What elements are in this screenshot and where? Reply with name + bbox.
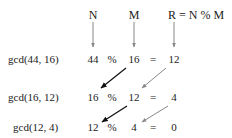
row-2-m: 12 — [129, 92, 140, 103]
row-1-call: gcd(44, 16) — [8, 54, 59, 65]
r-to-m-arrow-1 — [142, 68, 166, 88]
row-2-n: 16 — [88, 92, 99, 103]
row-2-op: % — [107, 92, 116, 103]
header-n: N — [89, 9, 98, 21]
row-2-r: 4 — [171, 92, 177, 103]
header-m: M — [129, 9, 140, 21]
row-3-call: gcd(12, 4) — [13, 122, 58, 133]
row-1-eq: = — [150, 54, 156, 65]
row-2-call: gcd(16, 12) — [8, 92, 59, 103]
row-3-m: 4 — [131, 122, 137, 133]
row-3-n: 12 — [88, 122, 99, 133]
row-1-m: 16 — [129, 54, 140, 65]
row-3-op: % — [107, 122, 116, 133]
m-to-n-arrow-1 — [101, 68, 126, 88]
header-r: R = N % M — [168, 9, 224, 21]
row-1-r: 12 — [169, 54, 180, 65]
row-2-eq: = — [150, 92, 156, 103]
row-1-op: % — [107, 54, 116, 65]
row-3-r: 0 — [171, 122, 177, 133]
row-3-eq: = — [150, 122, 156, 133]
r-to-m-arrow-2 — [142, 106, 168, 122]
row-1-n: 44 — [88, 54, 99, 65]
m-to-n-arrow-2 — [102, 106, 127, 122]
